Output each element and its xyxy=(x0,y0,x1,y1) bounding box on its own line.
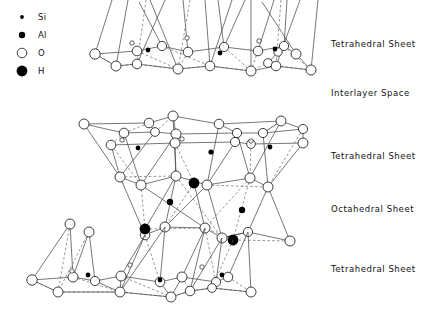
atom-oxygen xyxy=(136,180,146,190)
atom-oxygen xyxy=(171,129,181,139)
atom-oxygen xyxy=(246,287,256,297)
atom-oxygen xyxy=(245,173,255,183)
label-octahedral-sheet: Octahedral Sheet xyxy=(331,204,414,214)
atom-oxygen-small xyxy=(120,138,124,142)
atom-oxygen xyxy=(115,172,125,182)
atom-oxygen xyxy=(183,47,193,57)
atom-oxygen xyxy=(276,116,286,126)
atom-silicon xyxy=(273,47,278,52)
atom-oxygen xyxy=(68,272,78,282)
legend-label-si: Si xyxy=(38,12,46,22)
octahedral-sheet-group xyxy=(115,171,295,246)
atom-aluminium xyxy=(167,199,173,205)
atom-oxygen xyxy=(246,66,256,76)
atom-oxygen xyxy=(166,292,176,302)
label-interlayer-space: Interlayer Space xyxy=(331,88,410,98)
legend-label-h: H xyxy=(38,66,45,76)
atom-oxygen xyxy=(27,275,37,285)
atom-silicon xyxy=(268,145,273,150)
label-tetrahedral-sheet-bottom: Tetrahedral Sheet xyxy=(330,264,416,274)
atom-oxygen xyxy=(263,182,273,192)
tetrahedral-sheet-top-group xyxy=(90,0,318,76)
atom-oxygen xyxy=(173,64,183,74)
atom-oxygen xyxy=(132,46,142,56)
atom-silicon xyxy=(86,273,91,278)
aluminium-marker-icon xyxy=(19,32,25,38)
atom-oxygen-small xyxy=(249,139,253,143)
atom-oxygen xyxy=(168,111,178,121)
atom-oxygen xyxy=(119,128,129,138)
legend-item-o: O xyxy=(17,48,45,58)
atom-oxygen xyxy=(232,128,241,137)
atom-oxygen xyxy=(111,61,121,71)
atom-oxygen xyxy=(219,42,228,51)
atom-oxygen xyxy=(298,124,307,133)
atom-oxygen xyxy=(132,59,142,69)
atom-oxygen xyxy=(285,236,295,246)
sheet-labels: Tetrahedral Sheet Interlayer Space Tetra… xyxy=(330,39,416,274)
atom-hydrogen xyxy=(189,178,200,189)
atom-oxygen xyxy=(65,219,75,229)
atom-oxygen xyxy=(208,284,217,293)
atom-oxygen xyxy=(90,49,100,59)
oxygen-marker-icon xyxy=(17,48,27,58)
atom-oxygen-small xyxy=(200,265,204,269)
atom-silicon xyxy=(158,278,163,283)
atom-oxygen xyxy=(90,276,99,285)
atom-oxygen xyxy=(205,61,215,71)
atom-oxygen xyxy=(170,138,180,148)
oxygen-atoms-octahedral-sheet xyxy=(115,171,295,246)
atom-oxygen xyxy=(151,128,160,137)
atom-oxygen xyxy=(230,137,239,146)
oxygen-atoms-top-sheet xyxy=(90,36,316,76)
legend-item-h: H xyxy=(17,66,45,77)
atom-oxygen xyxy=(79,119,89,129)
atom-oxygen xyxy=(298,138,308,148)
atom-oxygen-small xyxy=(130,41,134,45)
atom-oxygen xyxy=(53,287,63,297)
tetrahedral-sheet-middle-group xyxy=(79,111,308,187)
atom-oxygen xyxy=(157,41,166,50)
legend-label-al: Al xyxy=(38,30,47,40)
atom-oxygen xyxy=(115,287,125,297)
atom-oxygen-small xyxy=(257,39,261,43)
label-tetrahedral-sheet-top: Tetrahedral Sheet xyxy=(330,39,416,49)
atom-oxygen-small xyxy=(180,137,184,141)
clay-structure-figure: Si Al O H Tetrahedral Sheet Interlayer S… xyxy=(0,0,429,316)
atom-oxygen-small xyxy=(128,263,132,267)
legend-label-o: O xyxy=(38,48,45,58)
atom-oxygen xyxy=(271,61,281,71)
atom-oxygen-small xyxy=(185,36,189,40)
hydrogen-marker-icon xyxy=(17,66,28,77)
atom-oxygen xyxy=(84,227,94,237)
atom-oxygen xyxy=(106,140,116,150)
silicon-marker-icon xyxy=(20,15,24,19)
atom-silicon xyxy=(136,146,141,151)
legend-item-al: Al xyxy=(19,30,47,40)
atom-hydrogen xyxy=(140,224,151,235)
tetrahedra-apex-lines-top xyxy=(95,0,318,71)
legend: Si Al O H xyxy=(17,12,47,76)
atom-oxygen xyxy=(291,49,301,59)
label-tetrahedral-sheet-middle: Tetrahedral Sheet xyxy=(330,151,416,161)
atom-silicon xyxy=(220,273,225,278)
atom-aluminium xyxy=(239,207,245,213)
atom-oxygen xyxy=(144,118,154,128)
atom-silicon xyxy=(146,48,151,53)
atom-oxygen xyxy=(258,128,267,137)
atom-oxygen xyxy=(177,272,187,282)
atom-oxygen xyxy=(223,272,233,282)
atom-silicon xyxy=(208,149,213,154)
atom-silicon xyxy=(218,51,223,56)
atom-oxygen xyxy=(306,65,316,75)
atom-oxygen xyxy=(214,119,224,129)
atom-oxygen xyxy=(253,46,263,56)
atom-oxygen xyxy=(116,271,126,281)
legend-item-si: Si xyxy=(20,12,46,22)
atom-oxygen-small xyxy=(70,269,74,273)
atom-oxygen xyxy=(185,286,195,296)
atom-oxygen xyxy=(171,171,181,181)
aluminium-atoms-octahedral-sheet xyxy=(167,199,245,213)
atom-oxygen xyxy=(202,180,212,190)
